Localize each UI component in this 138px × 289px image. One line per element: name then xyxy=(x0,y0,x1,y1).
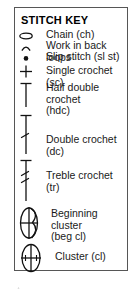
cluster-icon xyxy=(15,242,47,274)
list-item: Half double crochet (hdc) xyxy=(15,81,129,111)
list-item: Cluster (cl) xyxy=(15,242,129,274)
stray-scan-artifact xyxy=(16,279,21,285)
list-item: Beginning cluster (beg cl) xyxy=(15,205,129,241)
stitch-key-panel: STITCH KEY Chain (ch) Work in back loops… xyxy=(14,7,128,271)
list-item-label: Beginning cluster (beg cl) xyxy=(51,208,129,243)
beginning-cluster-icon xyxy=(15,205,47,241)
treble-crochet-icon xyxy=(15,158,47,204)
list-item-label: Double crochet (dc) xyxy=(46,134,129,157)
list-item: Single crochet (sc) xyxy=(15,64,129,79)
list-item-label: Cluster (cl) xyxy=(55,251,106,263)
tee-half-double-crochet-icon xyxy=(15,81,47,111)
list-item-label: Half double crochet (hdc) xyxy=(46,82,129,117)
list-item: Double crochet (dc) xyxy=(15,113,129,157)
page-title: STITCH KEY xyxy=(21,14,88,26)
dot-slip-stitch-icon xyxy=(15,52,47,64)
list-item-label: Slip stitch (sl st) xyxy=(46,51,120,63)
list-item: Slip stitch (sl st) xyxy=(15,52,129,64)
double-crochet-icon xyxy=(15,113,47,157)
list-item-label: Treble crochet (tr) xyxy=(46,170,129,193)
list-item: Treble crochet (tr) xyxy=(15,158,129,204)
plus-single-crochet-icon xyxy=(15,64,47,79)
